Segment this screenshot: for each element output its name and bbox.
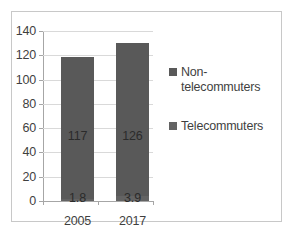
chart-legend: Non-telecommuters Telecommuters xyxy=(169,65,277,158)
y-tick-mark-100 xyxy=(39,80,43,81)
chart-frame: 140120100806040200 1171.820051263.92017 … xyxy=(11,11,282,222)
y-axis-line xyxy=(43,31,44,201)
y-tick-mark-140 xyxy=(39,31,43,32)
bar-segment-non-telecommuters[interactable] xyxy=(116,43,149,201)
legend-swatch-non-telecommuters xyxy=(169,68,177,76)
y-axis-tick-label: 40 xyxy=(22,145,36,159)
bar-value-non-telecommuters: 126 xyxy=(116,129,149,143)
plot-area: 140120100806040200 1171.820051263.92017 xyxy=(43,31,153,201)
legend-item-non-telecommuters[interactable]: Non-telecommuters xyxy=(169,65,277,95)
y-axis-tick-label: 80 xyxy=(22,97,36,111)
x-axis-divider-tick xyxy=(153,201,154,205)
legend-label-telecommuters: Telecommuters xyxy=(181,119,263,134)
y-axis-tick-label: 20 xyxy=(22,170,36,184)
legend-label-non-telecommuters: Non-telecommuters xyxy=(181,65,260,95)
x-axis-tick-label: 2005 xyxy=(61,214,94,228)
legend-item-telecommuters[interactable]: Telecommuters xyxy=(169,119,277,134)
legend-label-line-2: telecommuters xyxy=(181,80,260,94)
y-tick-mark-120 xyxy=(39,55,43,56)
x-axis-divider-tick xyxy=(43,201,44,205)
x-axis-divider-tick xyxy=(98,201,99,205)
y-tick-mark-20 xyxy=(39,177,43,178)
y-tick-mark-60 xyxy=(39,128,43,129)
y-tick-mark-40 xyxy=(39,152,43,153)
bar-value-non-telecommuters: 117 xyxy=(61,129,94,143)
y-axis-tick-label: 100 xyxy=(16,73,36,87)
y-axis-tick-label: 120 xyxy=(16,48,36,62)
y-axis-tick-label: 0 xyxy=(29,194,36,208)
y-tick-mark-80 xyxy=(39,104,43,105)
legend-swatch-telecommuters xyxy=(169,122,177,130)
bar-value-telecommuters: 3.9 xyxy=(116,191,149,205)
x-axis-tick-label: 2017 xyxy=(116,214,149,228)
y-axis-tick-label: 140 xyxy=(16,24,36,38)
gridline-140 xyxy=(43,31,153,32)
legend-label-line-1: Non- xyxy=(181,65,207,79)
y-axis-tick-label: 60 xyxy=(22,121,36,135)
bar-value-telecommuters: 1.8 xyxy=(61,191,94,205)
